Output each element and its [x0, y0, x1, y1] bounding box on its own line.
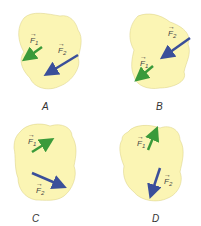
svg-text:→: →	[30, 30, 37, 37]
svg-text:→: →	[164, 171, 171, 178]
panel-a: F1 → F2 → A	[19, 13, 81, 112]
caption-d: D	[152, 213, 159, 224]
svg-text:→: →	[168, 23, 175, 30]
body-blob	[120, 125, 183, 201]
force-diagram: F1 → F2 → A F2 → F1 → B F1 → F2 → C F1 →…	[0, 0, 201, 226]
body-blob	[130, 14, 189, 89]
svg-text:→: →	[28, 131, 35, 138]
body-blob	[19, 13, 81, 89]
panel-d: F1 → F2 → D	[120, 125, 183, 224]
caption-b: B	[156, 101, 163, 112]
svg-text:→: →	[137, 133, 144, 140]
svg-text:→: →	[140, 53, 147, 60]
svg-text:→: →	[36, 180, 43, 187]
body-blob	[14, 124, 76, 200]
panel-b: F2 → F1 → B	[130, 14, 190, 112]
caption-a: A	[41, 101, 49, 112]
panel-c: F1 → F2 → C	[14, 124, 76, 224]
caption-c: C	[32, 213, 40, 224]
svg-text:→: →	[58, 40, 65, 47]
